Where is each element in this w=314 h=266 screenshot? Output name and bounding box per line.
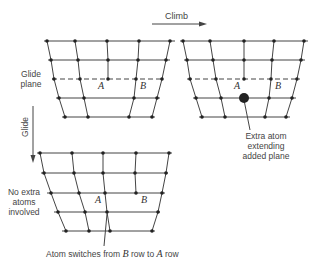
glide-label: Glide xyxy=(20,116,30,138)
no-extra-atoms-label: No extra atoms involved xyxy=(4,187,44,217)
atom-label-a: A xyxy=(95,195,101,205)
glide-plane-label: Glide plane xyxy=(16,69,46,89)
atom-label-b: B xyxy=(140,81,146,91)
atom-label-a: A xyxy=(234,81,240,91)
no-extra-line2: atoms xyxy=(4,197,44,207)
extra-atom-line2: extending xyxy=(236,141,296,151)
extra-atom-label: Extra atom extending added plane xyxy=(236,131,296,161)
glide-plane-line2: plane xyxy=(16,79,46,89)
extra-atom xyxy=(239,93,249,103)
atom-label-a: A xyxy=(98,81,104,91)
atom-label-b: B xyxy=(275,81,281,91)
extra-atom-line3: added plane xyxy=(236,151,296,161)
glide-plane-line1: Glide xyxy=(16,69,46,79)
no-extra-line1: No extra xyxy=(4,187,44,197)
climb-label: Climb xyxy=(165,11,188,21)
extra-atom-line1: Extra atom xyxy=(236,131,296,141)
switch-caption: Atom switches from B row to A row xyxy=(46,249,179,259)
grid-after-climb xyxy=(180,41,308,130)
no-extra-line3: involved xyxy=(4,207,44,217)
atom-label-b: B xyxy=(141,195,147,205)
